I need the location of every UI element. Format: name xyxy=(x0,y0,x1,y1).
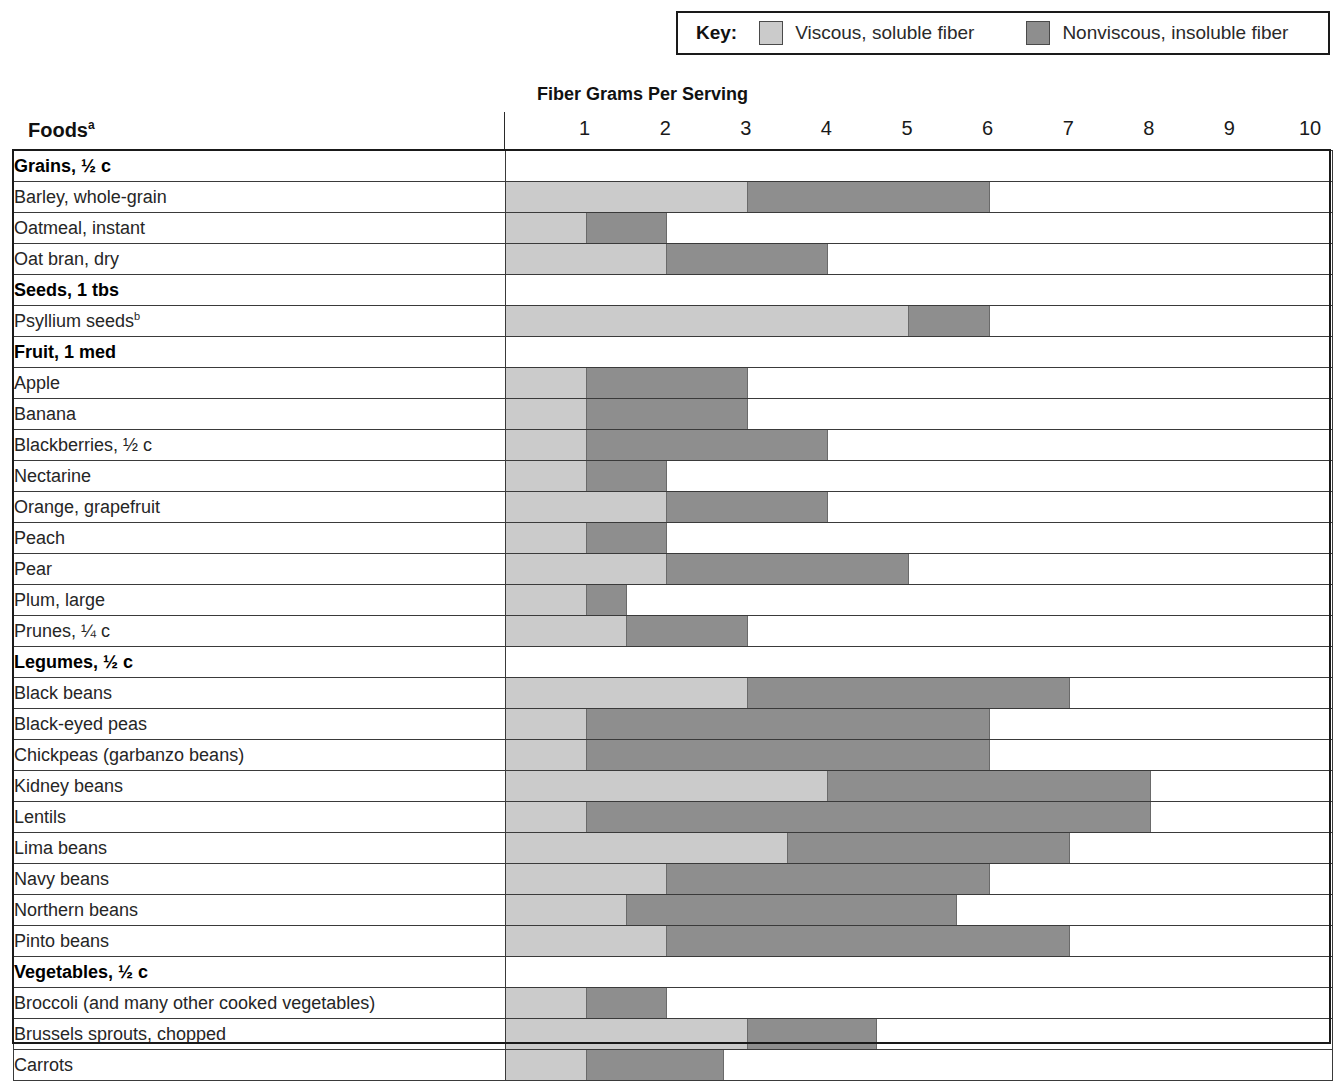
bar-segment-insoluble xyxy=(667,554,909,584)
food-label: Carrots xyxy=(14,1050,506,1081)
bar-segment-insoluble xyxy=(587,988,668,1018)
bar-track xyxy=(506,926,1332,956)
bar-cell xyxy=(506,864,1333,895)
legend-entry-nonviscous-insoluble: Nonviscous, insoluble fiber xyxy=(1026,21,1288,45)
axis-tick-4: 4 xyxy=(806,117,846,140)
food-label: Peach xyxy=(14,523,506,554)
table-group-row: Fruit, 1 med xyxy=(14,337,1333,368)
bar-segment-soluble xyxy=(506,1050,587,1080)
axis-tick-7: 7 xyxy=(1048,117,1088,140)
bar-cell xyxy=(506,709,1333,740)
axis-header-row: Foodsa 12345678910 xyxy=(13,112,1330,150)
bar-cell xyxy=(506,988,1333,1019)
bar-segment-soluble xyxy=(506,430,587,460)
food-label: Pinto beans xyxy=(14,926,506,957)
bar-track xyxy=(506,833,1332,863)
bar-segment-soluble xyxy=(506,771,828,801)
bar-segment-insoluble xyxy=(587,213,668,243)
bar-segment-soluble xyxy=(506,554,667,584)
table-row: Northern beans xyxy=(14,895,1333,926)
bar-track xyxy=(506,461,1332,491)
bar-segment-insoluble xyxy=(667,244,828,274)
bar-cell xyxy=(506,275,1333,306)
bar-track xyxy=(506,430,1332,460)
axis-tick-2: 2 xyxy=(645,117,685,140)
bar-segment-insoluble xyxy=(587,1050,724,1080)
bar-track xyxy=(506,275,1332,305)
bar-track xyxy=(506,554,1332,584)
bar-track xyxy=(506,616,1332,646)
legend-swatch-nonviscous-insoluble-icon xyxy=(1026,21,1050,45)
bar-segment-insoluble xyxy=(587,368,748,398)
bar-segment-soluble xyxy=(506,213,587,243)
bar-track xyxy=(506,678,1332,708)
bar-cell xyxy=(506,740,1333,771)
food-label: Lentils xyxy=(14,802,506,833)
legend-label-viscous-soluble: Viscous, soluble fiber xyxy=(795,22,974,44)
food-label: Broccoli (and many other cooked vegetabl… xyxy=(14,988,506,1019)
bar-track xyxy=(506,368,1332,398)
bar-cell xyxy=(506,647,1333,678)
food-label: Psyllium seedsb xyxy=(14,306,506,337)
bar-cell xyxy=(506,585,1333,616)
legend-label-nonviscous-insoluble: Nonviscous, insoluble fiber xyxy=(1062,22,1288,44)
food-label: Oat bran, dry xyxy=(14,244,506,275)
bar-cell xyxy=(506,926,1333,957)
food-label: Prunes, ¼ c xyxy=(14,616,506,647)
bar-cell xyxy=(506,430,1333,461)
bar-segment-insoluble xyxy=(748,678,1070,708)
food-label: Barley, whole-grain xyxy=(14,182,506,213)
bar-segment-soluble xyxy=(506,802,587,832)
bar-cell xyxy=(506,1019,1333,1050)
axis-tick-1: 1 xyxy=(565,117,605,140)
bar-segment-soluble xyxy=(506,585,587,615)
group-label: Legumes, ½ c xyxy=(14,647,506,678)
food-label: Chickpeas (garbanzo beans) xyxy=(14,740,506,771)
bar-segment-insoluble xyxy=(788,833,1070,863)
bar-track xyxy=(506,895,1332,925)
bar-segment-soluble xyxy=(506,740,587,770)
axis-origin-line xyxy=(504,112,505,150)
food-label: Blackberries, ½ c xyxy=(14,430,506,461)
table-row: Plum, large xyxy=(14,585,1333,616)
legend-swatch-viscous-soluble-icon xyxy=(759,21,783,45)
bar-segment-insoluble xyxy=(587,802,1151,832)
table-group-row: Vegetables, ½ c xyxy=(14,957,1333,988)
bar-segment-insoluble xyxy=(667,492,828,522)
table-row: Orange, grapefruit xyxy=(14,492,1333,523)
bar-segment-insoluble xyxy=(627,895,957,925)
bar-segment-soluble xyxy=(506,988,587,1018)
chart-title: Fiber Grams Per Serving xyxy=(537,84,748,105)
bar-cell xyxy=(506,895,1333,926)
table-row: Pinto beans xyxy=(14,926,1333,957)
bar-segment-insoluble xyxy=(587,461,668,491)
bar-segment-insoluble xyxy=(587,523,668,553)
table-row: Brussels sprouts, chopped xyxy=(14,1019,1333,1050)
bar-segment-soluble xyxy=(506,182,748,212)
food-label: Plum, large xyxy=(14,585,506,616)
axis-tick-3: 3 xyxy=(726,117,766,140)
bar-segment-soluble xyxy=(506,399,587,429)
bar-segment-soluble xyxy=(506,461,587,491)
bar-track xyxy=(506,709,1332,739)
bar-segment-insoluble xyxy=(909,306,990,336)
bar-track xyxy=(506,213,1332,243)
fiber-table-body: Grains, ½ cBarley, whole-grainOatmeal, i… xyxy=(14,151,1333,1081)
axis-tick-8: 8 xyxy=(1129,117,1169,140)
bar-segment-soluble xyxy=(506,833,788,863)
bar-segment-soluble xyxy=(506,1019,748,1049)
bar-segment-soluble xyxy=(506,492,667,522)
table-group-row: Seeds, 1 tbs xyxy=(14,275,1333,306)
bar-track xyxy=(506,771,1332,801)
bar-track xyxy=(506,492,1332,522)
table-row: Peach xyxy=(14,523,1333,554)
group-label: Seeds, 1 tbs xyxy=(14,275,506,306)
bar-segment-insoluble xyxy=(587,399,748,429)
bar-track xyxy=(506,802,1332,832)
food-label: Navy beans xyxy=(14,864,506,895)
bar-segment-insoluble xyxy=(627,616,748,646)
table-row: Black beans xyxy=(14,678,1333,709)
bar-segment-insoluble xyxy=(587,740,990,770)
bar-cell xyxy=(506,802,1333,833)
table-row: Navy beans xyxy=(14,864,1333,895)
